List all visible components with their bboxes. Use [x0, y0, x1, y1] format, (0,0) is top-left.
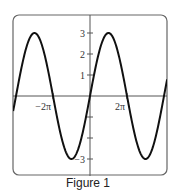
x-tick-label: −2π	[35, 101, 51, 112]
figure-caption: Figure 1	[0, 176, 176, 190]
figure-plot: 321−3 −2π2π	[0, 0, 176, 176]
y-tick-label: 3	[80, 28, 85, 39]
x-tick-label: 2π	[115, 101, 125, 112]
y-tick-label: 1	[80, 70, 85, 81]
y-tick-label: 2	[80, 49, 85, 60]
